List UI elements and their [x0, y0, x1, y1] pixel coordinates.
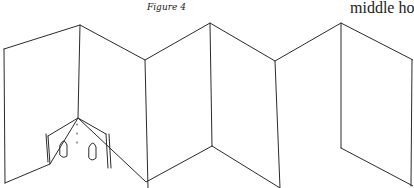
folded-card-with-clips — [46, 118, 111, 168]
